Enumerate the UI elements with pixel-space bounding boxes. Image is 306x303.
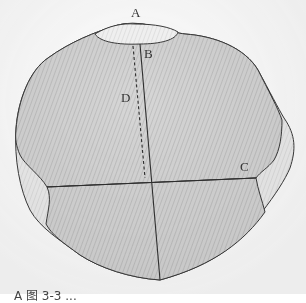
label-b: B xyxy=(144,47,153,60)
label-a: A xyxy=(131,6,140,19)
figure-caption: A 图 3-3 ... xyxy=(14,286,77,303)
label-d: D xyxy=(121,91,130,104)
top-cap xyxy=(95,24,178,44)
label-c: C xyxy=(240,160,249,173)
